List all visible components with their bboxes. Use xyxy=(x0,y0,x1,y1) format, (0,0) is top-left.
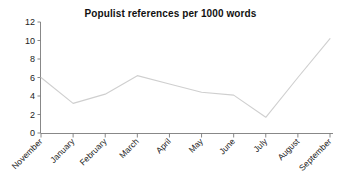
x-axis-tick-label: February xyxy=(78,136,110,168)
y-axis-tick-label: 2 xyxy=(30,110,35,120)
line-chart-plot: 024681012 NovemberJanuaryFebruaryMarchAp… xyxy=(0,0,341,189)
x-axis-tick-label: August xyxy=(276,136,302,162)
x-axis-tick-label: May xyxy=(187,136,206,155)
x-axis-tick-label: June xyxy=(217,136,237,156)
x-axis-tick-marks xyxy=(41,134,330,138)
x-axis-tick-label: November xyxy=(10,136,45,171)
y-axis-tick-label: 0 xyxy=(30,128,35,138)
y-axis-tick-labels: 024681012 xyxy=(25,17,35,138)
x-axis-tick-label: January xyxy=(48,136,77,165)
y-axis-tick-label: 6 xyxy=(30,73,35,83)
x-axis-tick-labels: NovemberJanuaryFebruaryMarchAprilMayJune… xyxy=(10,136,334,173)
y-axis-tick-label: 12 xyxy=(25,17,35,27)
x-axis-tick-label: March xyxy=(117,136,141,160)
y-axis-tick-label: 10 xyxy=(25,36,35,46)
x-axis-tick-label: April xyxy=(154,136,173,155)
chart-container: Populist references per 1000 words 02468… xyxy=(0,0,341,189)
y-axis-tick-label: 4 xyxy=(30,91,35,101)
x-axis-tick-label: July xyxy=(251,136,269,154)
data-series-line xyxy=(41,39,330,118)
y-axis-tick-label: 8 xyxy=(30,54,35,64)
x-axis-tick-label: September xyxy=(297,136,334,173)
